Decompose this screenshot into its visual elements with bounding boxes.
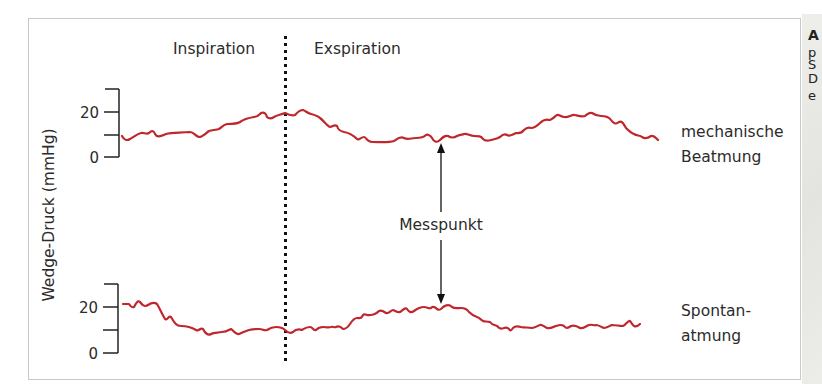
trace-label-atmung: atmung (681, 327, 741, 345)
arrow-up-icon (437, 143, 445, 153)
messpunkt-label: Messpunkt (399, 216, 483, 234)
tick-0-top: 0 (89, 149, 99, 167)
wedge-pressure-diagram: Inspiration Exspiration Wedge-Druck (mmH… (0, 0, 822, 384)
top-y-axis (104, 89, 119, 157)
phase-label-inspiration: Inspiration (173, 40, 255, 58)
y-axis-label: Wedge-Druck (mmHg) (40, 128, 58, 301)
bottom-y-axis (103, 284, 118, 353)
trace-mechanical-ventilation (122, 110, 658, 142)
arrow-down-icon (437, 294, 445, 304)
trace-label-beatmung: Beatmung (681, 148, 761, 166)
tick-0-bottom: 0 (88, 345, 98, 363)
trace-label-mechanische: mechanische (681, 123, 784, 141)
trace-label-spontan: Spontan- (681, 302, 751, 320)
tick-20-top: 20 (80, 104, 99, 122)
trace-spontaneous-breathing (123, 301, 640, 334)
phase-label-exspiration: Exspiration (314, 40, 401, 58)
tick-20-bottom: 20 (79, 299, 98, 317)
